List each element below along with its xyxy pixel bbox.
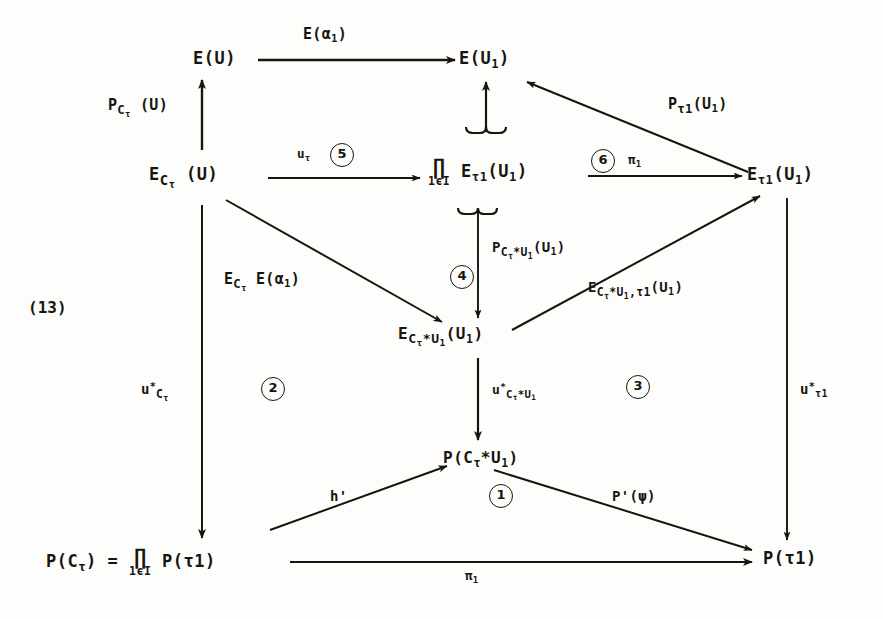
pps-P: P xyxy=(612,488,621,504)
eca-one: 1 xyxy=(284,277,291,290)
node-PCtau-tau: τ xyxy=(78,560,86,574)
product-symbol-bottom: ∏ 1ϵI xyxy=(129,548,151,577)
edge-label-E-alpha1: E(α1) xyxy=(303,27,347,45)
eca-tau: τ xyxy=(241,283,247,293)
node-Etau1U1-open: (U xyxy=(773,164,794,184)
pcu-P: P xyxy=(108,96,117,114)
node-PCtauU1-P: P(C xyxy=(443,448,473,467)
pcu1-P: P xyxy=(492,239,501,255)
edge-label-u-star-Ctau: u*Cτ xyxy=(141,382,169,402)
edge-label-E-CtauU1-tau1: ECτ*U1,τ1(U1) xyxy=(588,280,683,300)
usc-tau: τ xyxy=(163,393,168,403)
ptu-tau1: τ1 xyxy=(677,102,692,116)
node-Etau1U1-close: ) xyxy=(803,164,814,184)
pitop-pi: π xyxy=(628,152,636,167)
arrow-ECtauU1U1-to-Etau1U1 xyxy=(512,196,760,330)
prod-node-argsub: 1 xyxy=(509,170,517,184)
region-number-2: 2 xyxy=(261,377,285,401)
pcu-arg: (U) xyxy=(140,96,168,114)
pcu1-C: C xyxy=(501,245,508,259)
ect-E: E xyxy=(588,279,597,295)
eca-E: E xyxy=(224,270,233,288)
node-E-U1: E(U1) xyxy=(459,50,510,70)
diagram-canvas: (13) E(U) E(U1) ECτ (U) ∏ 1ϵI Eτ1(U1) Eτ… xyxy=(0,0,883,619)
pcu1-close: ) xyxy=(557,239,566,255)
node-E-Ctau-U-arg: (U) xyxy=(186,164,218,184)
ptu-close: ) xyxy=(718,95,727,113)
arrow-PCtau-to-PCtauU1 xyxy=(270,466,447,530)
node-E-U-text: E(U) xyxy=(193,48,236,68)
uscu-C: C xyxy=(506,388,513,401)
prod-node-open: (U xyxy=(488,161,509,181)
sub-U: U xyxy=(431,331,439,346)
node-E-tau1-U1: Eτ1(U1) xyxy=(747,166,814,186)
arrow-ECtauU-to-ECtauU1U1 xyxy=(226,200,442,322)
ect-close: ) xyxy=(674,279,683,295)
node-E-U: E(U) xyxy=(193,50,236,67)
pcu1-U: U xyxy=(520,245,527,259)
node-Ptau1-text: P(τ1) xyxy=(763,548,817,568)
eca-C: C xyxy=(233,277,241,291)
node-PCtauU1-U: U xyxy=(491,448,501,467)
node-ECtauU1-subscript: Cτ*U1 xyxy=(408,331,446,346)
node-PCtauU1-close: ) xyxy=(509,448,519,467)
node-P-Ctau-product: P(Cτ) = ∏ 1ϵI P(τ1) xyxy=(46,548,216,577)
eal-E-open: E( xyxy=(303,25,322,43)
node-P-tau1: P(τ1) xyxy=(763,550,817,567)
node-PCtau-equals: ) = xyxy=(86,551,118,571)
edge-label-P-tau1-U1: Pτ1(U1) xyxy=(668,97,728,115)
ect-C: C xyxy=(597,285,604,299)
subscript-C: C xyxy=(160,172,169,188)
node-E-Ctau-U-E: E xyxy=(149,164,160,184)
node-PCtauU1-one: 1 xyxy=(501,456,508,470)
edge-label-u-star-CtauU1: u*Cτ*U1 xyxy=(492,382,536,402)
sub-C: C xyxy=(408,331,416,346)
subscript-tau: τ xyxy=(169,179,176,190)
region-number-1: 1 xyxy=(489,484,513,508)
pibot-one: 1 xyxy=(473,575,479,585)
brace-under-prod xyxy=(458,208,497,214)
node-P-CtauU1: P(Cτ*U1) xyxy=(443,450,519,469)
arrow-layer xyxy=(0,0,883,619)
arrow-PCtauU1-to-Ptau1 xyxy=(494,470,752,550)
node-E-CtauU1-U1: ECτ*U1(U1) xyxy=(398,326,484,348)
product-symbol: ∏ 1ϵI xyxy=(428,158,450,187)
edge-label-P-CtauU1-U1: PCτ*U1(U1) xyxy=(492,240,566,260)
prod-index-bottom: 1ϵI xyxy=(129,566,151,577)
prod-node-sub: τ1 xyxy=(472,170,488,184)
pps-psi: ψ xyxy=(638,488,647,504)
ect-tau1: τ1 xyxy=(636,285,650,299)
eal-close: ) xyxy=(338,25,347,43)
edge-label-P-prime-psi: P'E((ψ) xyxy=(612,489,656,503)
uscu-one: 1 xyxy=(531,393,536,402)
eal-alpha: α xyxy=(322,25,331,43)
uscu-sub: Cτ*U1 xyxy=(506,388,536,401)
node-ECtauU1-E: E xyxy=(398,324,408,343)
node-E-U1-base: E(U xyxy=(459,48,491,68)
ust-u: u xyxy=(800,381,809,397)
ect-U: U xyxy=(616,285,623,299)
usc-sub: Cτ xyxy=(156,387,169,401)
node-ECtauU1-open: (U xyxy=(446,324,466,343)
edge-label-u-tau: uτ xyxy=(297,148,311,163)
eca-sub: Cτ xyxy=(233,277,246,291)
pcu1-open: (U xyxy=(533,239,550,255)
ptu-open: (U xyxy=(693,95,712,113)
edge-label-P-Ctau-U: PCτ (U) xyxy=(108,98,168,119)
utau-u: u xyxy=(297,146,305,161)
edge-label-pi-1-top: π1 xyxy=(628,154,642,169)
node-Etau1U1-argsub: 1 xyxy=(795,173,803,187)
brace-under-EU1 xyxy=(466,127,506,133)
node-PCtau-Ptau1: P(τ1) xyxy=(162,551,216,571)
node-ECtauU1-close: ) xyxy=(473,324,483,343)
uscu-u: u xyxy=(492,382,500,397)
eal-one: 1 xyxy=(331,32,338,45)
sub-star: * xyxy=(423,331,431,346)
equation-number: (13) xyxy=(28,300,67,316)
node-E-U1-sub: 1 xyxy=(491,57,499,71)
pcu1-sub: Cτ*U1 xyxy=(501,245,533,259)
node-E-U1-close: ) xyxy=(499,48,510,68)
ptu-sub: τ1 xyxy=(677,102,692,116)
usc-u: u xyxy=(141,381,150,397)
region-number-4: 4 xyxy=(450,265,474,289)
